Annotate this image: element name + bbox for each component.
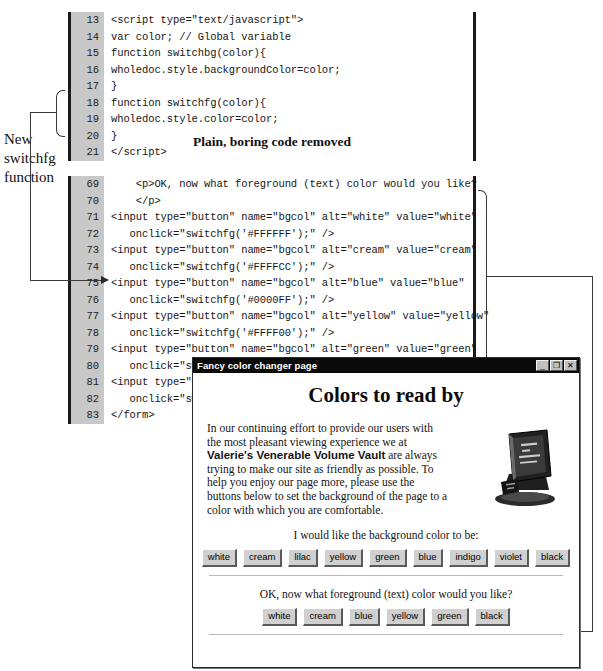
code-line-text: onclick="switchfg('#FFFFFF');" /> [105,226,473,243]
line-number: 78 [71,325,105,342]
bgcolor-green-button[interactable]: green [369,549,406,567]
code-line: 71<input type="button" name="bgcol" alt=… [71,209,473,226]
line-number: 18 [71,95,105,112]
code-line-text: <input type="button" name="bgcol" alt="w… [105,209,477,226]
line-number: 19 [71,111,105,128]
code-line: 16wholedoc.style.backgroundColor=color; [71,62,473,79]
line-number: 16 [71,62,105,79]
divider [209,575,563,576]
line-number: 17 [71,78,105,95]
intro-text-part1: In our continuing effort to provide our … [207,422,433,448]
code-line-text: wholedoc.style.color=color; [105,111,473,128]
bgcolor-lilac-button[interactable]: lilac [288,549,317,567]
fgcolor-blue-button[interactable]: blue [349,608,380,626]
bgcolor-blue-button[interactable]: blue [413,549,444,567]
brace-input-buttons [478,190,487,364]
code-line-text: <input type="button" name="bgcol" alt="g… [105,341,477,358]
fgcolor-white-button[interactable]: white [262,608,297,626]
code-line-text: function switchfg(color){ [105,95,473,112]
foreground-prompt: OK, now what foreground (text) color wou… [207,588,565,600]
callout-line-vertical-left [30,112,31,280]
callout-right-horizontal-top [486,276,593,277]
bgcolor-white-button[interactable]: white [202,549,237,567]
code-line: 14var color; // Global variable [71,29,473,46]
code-line-text: onclick="switchfg('#FFFF00');" /> [105,325,473,342]
bgcolor-indigo-button[interactable]: indigo [449,549,487,567]
line-number: 72 [71,226,105,243]
intro-paragraph: In our continuing effort to provide our … [207,422,449,517]
divider-bottom [209,634,563,635]
code-line: 15function switchbg(color){ [71,45,473,62]
code-line: 74 onclick="switchfg('#FFFFCC');" /> [71,259,473,276]
line-number: 80 [71,358,105,375]
browser-window: Fancy color changer page _ ❐ ✕ Colors to… [192,357,580,668]
line-number: 69 [71,176,105,193]
code-line: 75<input type="button" name="bgcol" alt=… [71,275,473,292]
fgcolor-black-button[interactable]: black [475,608,510,626]
code-line: 18function switchfg(color){ [71,95,473,112]
browser-titlebar[interactable]: Fancy color changer page _ ❐ ✕ [193,358,579,373]
code-line-text: wholedoc.style.backgroundColor=color; [105,62,473,79]
bgcolor-violet-button[interactable]: violet [494,549,529,567]
fgcolor-cream-button[interactable]: cream [303,608,342,626]
line-number: 76 [71,292,105,309]
bgcolor-yellow-button[interactable]: yellow [324,549,363,567]
line-number: 13 [71,12,105,29]
callout-right-vertical [592,276,593,631]
code-line-text: <input type="button" name="bgcol" alt="b… [105,275,473,292]
fgcolor-green-button[interactable]: green [431,608,468,626]
background-prompt: I would like the background color to be: [207,529,565,541]
browser-title: Fancy color changer page [197,360,317,371]
callout-line-horizontal-upper [30,112,57,113]
arrow-to-line-76-icon [101,276,109,284]
code-line: 13<script type="text/javascript"> [71,12,473,29]
code-line-text: onclick="switchfg('#0000FF');" /> [105,292,473,309]
code-caption: Plain, boring code removed [68,134,476,150]
minimize-button[interactable]: _ [536,360,549,371]
line-number: 70 [71,193,105,210]
code-line-text: onclick="switchfg('#FFFFCC');" /> [105,259,473,276]
bgcolor-cream-button[interactable]: cream [243,549,282,567]
line-number: 75 [71,275,105,292]
line-number: 74 [71,259,105,276]
foreground-color-button-row: whitecreamblueyellowgreenblack [207,608,565,626]
code-line-text: <input type="button" name="bgcol" alt="y… [105,308,489,325]
line-number: 82 [71,391,105,408]
line-number: 71 [71,209,105,226]
code-line-text: <input type="button" name="bgcol" alt="c… [105,242,477,259]
callout-line-horizontal-lower [30,280,102,281]
code-line: 69 <p>OK, now what foreground (text) col… [71,176,473,193]
fgcolor-yellow-button[interactable]: yellow [386,608,425,626]
code-line-text: } [105,78,473,95]
code-line-text: function switchbg(color){ [105,45,473,62]
line-number: 83 [71,407,105,424]
browser-content: Colors to read by In our continuing effo… [193,373,579,667]
close-button[interactable]: ✕ [564,360,577,371]
code-line: 73<input type="button" name="bgcol" alt=… [71,242,473,259]
code-line: 77<input type="button" name="bgcol" alt=… [71,308,473,325]
bgcolor-black-button[interactable]: black [535,549,570,567]
line-number: 14 [71,29,105,46]
intro-section: In our continuing effort to provide our … [207,422,565,517]
code-line: 19wholedoc.style.color=color; [71,111,473,128]
code-line: 17} [71,78,473,95]
code-line: 72 onclick="switchfg('#FFFFFF');" /> [71,226,473,243]
window-controls: _ ❐ ✕ [536,360,577,371]
brace-upper-lines [56,90,65,137]
page-heading: Colors to read by [207,383,565,408]
line-number: 15 [71,45,105,62]
line-number: 73 [71,242,105,259]
code-line-text: <p>OK, now what foreground (text) color … [105,176,477,193]
brand-name: Valerie's Venerable Volume Vault [207,449,385,461]
line-number: 81 [71,374,105,391]
line-number: 79 [71,341,105,358]
line-number: 77 [71,308,105,325]
code-line: 79<input type="button" name="bgcol" alt=… [71,341,473,358]
code-line: 70 </p> [71,193,473,210]
code-line-text: var color; // Global variable [105,29,473,46]
maximize-button[interactable]: ❐ [550,360,563,371]
book-illustration-icon [489,424,561,508]
background-color-button-row: whitecreamlilacyellowgreenblueindigoviol… [207,549,565,567]
code-line-text: <script type="text/javascript"> [105,12,473,29]
code-line: 78 onclick="switchfg('#FFFF00');" /> [71,325,473,342]
